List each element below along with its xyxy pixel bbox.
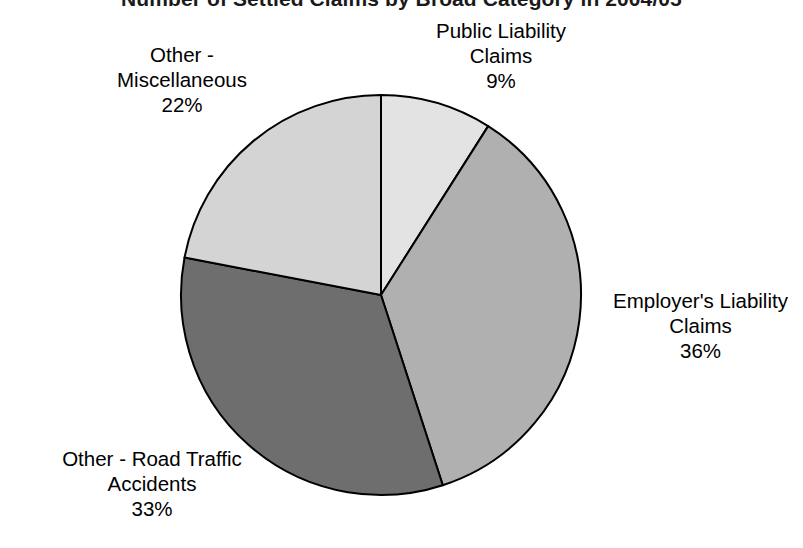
slice-label-public-liability-line1: Public Liability [401,18,601,43]
slice-label-miscellaneous-line1: Other - [72,42,292,67]
slice-label-miscellaneous-value: 22% [72,92,292,117]
slice-label-road-traffic: Other - Road Traffic Accidents 33% [12,446,292,521]
slice-label-miscellaneous: Other - Miscellaneous 22% [72,42,292,117]
slice-label-public-liability-value: 9% [401,68,601,93]
slice-label-road-traffic-line1: Other - Road Traffic [12,446,292,471]
pie-chart-figure: Number of Settled Claims by Broad Catego… [0,0,803,548]
slice-label-employers-liability-line1: Employer's Liability [598,288,803,313]
slice-label-road-traffic-line2: Accidents [12,471,292,496]
slice-label-employers-liability-line2: Claims [598,313,803,338]
slice-label-road-traffic-value: 33% [12,496,292,521]
slice-label-miscellaneous-line2: Miscellaneous [72,67,292,92]
slice-label-employers-liability: Employer's Liability Claims 36% [598,288,803,363]
slice-label-public-liability-line2: Claims [401,43,601,68]
slice-label-employers-liability-value: 36% [598,338,803,363]
slice-label-public-liability: Public Liability Claims 9% [401,18,601,93]
